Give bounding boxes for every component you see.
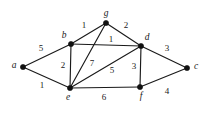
node-a	[20, 64, 25, 69]
edge-f-c	[140, 68, 187, 87]
edge-a-e	[23, 67, 70, 88]
edge-weight-f-c: 4	[165, 86, 170, 96]
node-b	[68, 41, 73, 46]
node-e	[67, 85, 72, 90]
node-label-d: d	[145, 32, 150, 42]
node-g	[103, 20, 108, 25]
edge-weight-e-f: 6	[102, 92, 107, 102]
node-label-b: b	[62, 30, 67, 40]
edge-weight-g-e: 7	[90, 58, 95, 68]
edge-weight-e-d: 5	[110, 65, 115, 75]
edge-weight-d-c: 3	[165, 43, 170, 53]
edge-weight-d-f: 3	[132, 61, 137, 71]
graph-canvas: 511122753364 abcdefg	[0, 0, 216, 119]
edge-weights-layer: 511122753364	[39, 20, 170, 102]
edge-weight-g-d: 2	[124, 20, 129, 30]
edge-weight-a-b: 5	[39, 43, 44, 53]
node-label-f: f	[140, 91, 144, 101]
node-f	[137, 84, 142, 89]
weighted-graph-figure: 511122753364 abcdefg	[0, 0, 216, 119]
edge-weight-b-g: 1	[82, 20, 87, 30]
node-label-c: c	[194, 61, 199, 71]
edge-e-d	[70, 46, 141, 88]
edge-d-f	[140, 46, 141, 87]
node-label-a: a	[12, 60, 17, 70]
edge-b-e	[70, 44, 71, 88]
edge-weight-b-e: 2	[61, 60, 66, 70]
edge-weight-a-e: 1	[40, 80, 45, 90]
node-label-e: e	[66, 92, 70, 102]
edge-g-e	[70, 23, 106, 88]
edge-b-d	[71, 44, 141, 46]
node-c	[184, 65, 189, 70]
edges-layer	[23, 23, 187, 88]
edge-weight-b-d: 1	[109, 34, 114, 44]
node-label-g: g	[104, 8, 109, 18]
edge-e-f	[70, 87, 140, 88]
node-d	[138, 43, 143, 48]
